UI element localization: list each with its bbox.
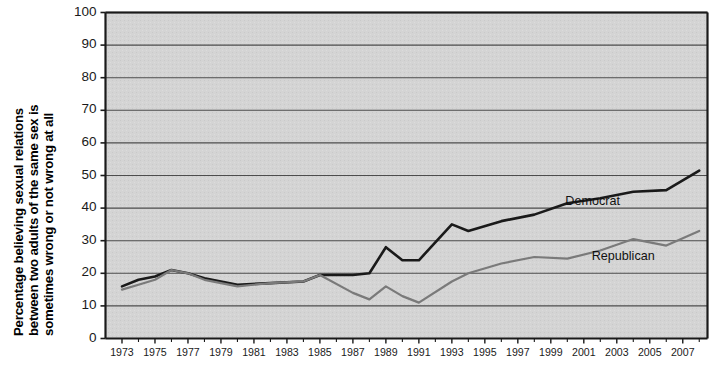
y-tick-label: 40 (63, 199, 97, 214)
plot-area (0, 0, 715, 371)
chart-figure: Percentage believing sexual relations be… (0, 0, 715, 371)
y-tick-label: 100 (63, 4, 97, 19)
x-tick-label: 2007 (663, 346, 703, 358)
y-axis-title-line-3: sometimes wrong or not wrong at all (42, 0, 55, 336)
y-tick-label: 60 (63, 134, 97, 149)
y-tick-label: 30 (63, 232, 97, 247)
y-tick-label: 10 (63, 297, 97, 312)
y-tick-label: 20 (63, 264, 97, 279)
series-annotation-democrat: Democrat (565, 194, 620, 208)
y-axis-title-line-1: Percentage believing sexual relations (12, 0, 25, 336)
y-tick-label: 90 (63, 36, 97, 51)
y-tick-label: 0 (63, 330, 97, 345)
y-axis-title-line-2: between two adults of the same sex is (27, 0, 40, 336)
y-tick-label: 50 (63, 167, 97, 182)
y-tick-label: 70 (63, 101, 97, 116)
y-tick-label: 80 (63, 69, 97, 84)
series-annotation-republican: Republican (592, 249, 655, 263)
